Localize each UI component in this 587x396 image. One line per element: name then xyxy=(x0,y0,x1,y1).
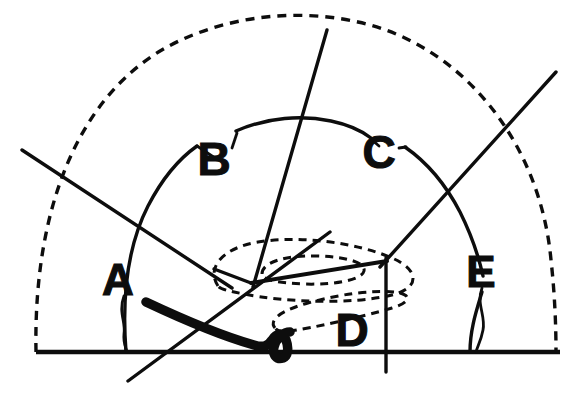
diagram-drawing: A B C D E xyxy=(0,0,587,396)
diagram-canvas: A B C D E xyxy=(0,0,587,396)
label-b: B xyxy=(197,133,230,185)
label-e: E xyxy=(466,247,495,296)
label-a: A xyxy=(102,255,134,304)
label-d: D xyxy=(335,304,368,356)
label-c: C xyxy=(362,126,395,178)
leader-c-right xyxy=(399,147,406,148)
canvas-background xyxy=(0,0,587,396)
